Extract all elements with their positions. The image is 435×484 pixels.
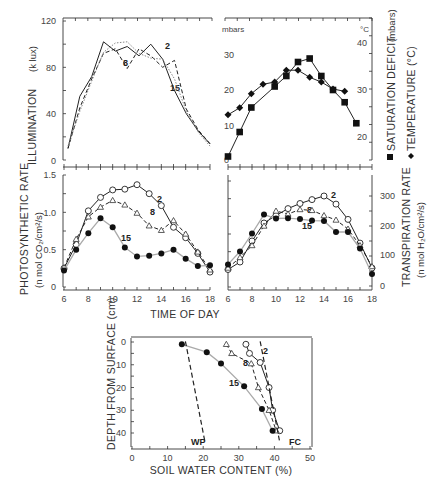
y-axis-label-illumination: ILLUMINATION — [26, 89, 38, 165]
diamond-marker-icon — [306, 74, 313, 81]
x-axis-label-time: TIME OF DAY — [150, 308, 220, 320]
chart-photosynthesis — [61, 182, 213, 275]
right-ytick-20: 20 — [357, 132, 367, 142]
ytick-label: 0 — [121, 337, 126, 347]
square-marker-icon — [306, 55, 313, 62]
open-circle-marker-icon — [243, 341, 249, 347]
fc-label: FC — [289, 437, 301, 447]
ytick-0: 0 — [51, 156, 56, 166]
open-triangle-marker-icon — [321, 213, 327, 218]
filled-circle-marker-icon — [218, 361, 224, 367]
series-label-8: 8 — [150, 207, 155, 217]
filled-circle-marker-icon — [345, 229, 351, 235]
y-axis-unit-illumination: (k lux) — [27, 46, 38, 72]
filled-circle-marker-icon — [110, 224, 116, 230]
chart-climate — [225, 55, 360, 160]
square-marker-icon — [318, 73, 325, 80]
left-ytick-10: 10 — [224, 121, 234, 131]
filled-circle-marker-icon — [98, 215, 104, 221]
open-triangle-marker-icon — [134, 210, 140, 215]
square-marker-icon — [225, 153, 232, 160]
xtick-label: 18 — [367, 294, 377, 304]
chart-transpiration — [225, 193, 375, 277]
diamond-marker-icon — [225, 111, 232, 118]
filled-circle-marker-icon — [321, 218, 327, 224]
left-unit-mbars: mbars — [222, 25, 244, 34]
figure-canvas: 120 80 40 0 ILLUMINATION (k lux) 2 8 15 … — [0, 0, 435, 484]
square-marker-icon — [353, 120, 360, 127]
filled-circle-marker-icon — [207, 262, 213, 268]
filled-circle-marker-icon — [261, 212, 267, 218]
right-ytick-30: 30 — [357, 85, 367, 95]
open-triangle-marker-icon — [122, 202, 128, 207]
y-axis-unit-saturation: (mbars) — [386, 9, 397, 42]
right-ytick-40: 40 — [357, 38, 367, 48]
ytick-300: 300 — [380, 191, 395, 201]
filled-circle-marker-icon — [134, 253, 140, 259]
ytick-120: 120 — [41, 16, 56, 26]
panel-soil: DEPTH FROM SURFACE (cm) SOIL WATER CONTE… — [105, 297, 315, 476]
y-axis-label-transpiration: TRANSPIRATION RATE — [400, 167, 412, 287]
y-axis-unit-transpiration: (n mol H₂O/cm²/s) — [415, 202, 426, 278]
ytick-0-5: 0.5 — [43, 245, 56, 255]
series-line — [68, 49, 210, 149]
diamond-marker-icon — [295, 67, 302, 74]
series-label-8: 8 — [243, 358, 248, 368]
open-triangle-marker-icon — [237, 255, 243, 260]
xtick-label: 12 — [132, 294, 142, 304]
xtick-label: 30 — [234, 453, 244, 463]
chart-soil — [179, 341, 283, 442]
wp-label: WP — [191, 437, 206, 447]
open-circle-marker-icon — [85, 208, 91, 214]
open-triangle-marker-icon — [146, 223, 152, 228]
filled-circle-marker-icon — [357, 246, 363, 252]
open-circle-marker-icon — [110, 187, 116, 193]
y-axis-label-temperature: TEMPERATURE (°C) — [405, 46, 417, 151]
open-circle-marker-icon — [134, 182, 140, 188]
open-circle-marker-icon — [171, 224, 177, 230]
left-ytick-30: 30 — [224, 50, 234, 60]
x-axis-label-soil: SOIL WATER CONTENT (%) — [150, 464, 293, 476]
xtick-label: 8 — [86, 294, 91, 304]
square-marker-icon — [236, 129, 243, 136]
xtick-label: 12 — [295, 294, 305, 304]
series-label-2: 2 — [165, 41, 170, 51]
open-circle-marker-icon — [297, 201, 303, 207]
xtick-label: 16 — [343, 294, 353, 304]
open-triangle-marker-icon — [183, 231, 189, 236]
xtick-label: 20 — [198, 453, 208, 463]
open-triangle-marker-icon — [98, 204, 104, 209]
open-circle-marker-icon — [122, 186, 128, 192]
series-line — [228, 59, 356, 157]
xtick-label: 18 — [205, 294, 215, 304]
series-line — [68, 42, 210, 149]
filled-circle-marker-icon — [259, 406, 265, 412]
filled-circle-marker-icon — [73, 247, 79, 253]
xtick-label: 6 — [61, 294, 66, 304]
open-triangle-marker-icon — [223, 341, 229, 346]
series-label-2: 2 — [263, 346, 268, 356]
open-circle-marker-icon — [246, 350, 252, 356]
ytick-label: 20 — [116, 383, 126, 393]
filled-circle-marker-icon — [158, 250, 164, 256]
xtick-label: 14 — [319, 294, 329, 304]
xtick-label: 14 — [156, 294, 166, 304]
ytick-40: 40 — [46, 109, 56, 119]
filled-circle-marker-icon — [273, 216, 279, 222]
ytick-0: 0 — [380, 281, 385, 291]
filled-circle-marker-icon — [249, 231, 255, 237]
square-marker-icon — [341, 99, 348, 106]
open-triangle-marker-icon — [333, 217, 339, 222]
open-circle-marker-icon — [345, 216, 351, 222]
filled-circle-marker-icon — [285, 215, 291, 221]
filled-circle-marker-icon — [225, 261, 231, 267]
left-ytick-20: 20 — [224, 85, 234, 95]
xtick-label: 16 — [181, 294, 191, 304]
filled-circle-marker-icon — [297, 216, 303, 222]
open-circle-marker-icon — [333, 201, 339, 207]
open-circle-marker-icon — [321, 193, 327, 199]
open-circle-marker-icon — [158, 203, 164, 209]
xtick-label: 0 — [129, 453, 134, 463]
ytick-label: 10 — [116, 360, 126, 370]
series-label-15: 15 — [121, 233, 131, 243]
